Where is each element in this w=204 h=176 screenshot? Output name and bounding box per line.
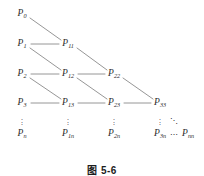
node-p1n-subscript: 1n (68, 132, 74, 139)
node-p2n: P2n (108, 129, 120, 139)
node-p3n: P3n (154, 129, 166, 139)
edge-layer (0, 0, 204, 176)
node-p11: P11 (62, 39, 73, 49)
vdots-col-2: ... (113, 117, 115, 125)
node-p13-subscript: 13 (68, 101, 74, 108)
vdots-col-0: ... (21, 117, 23, 125)
node-pnn-subscript: nn (188, 132, 194, 139)
node-p23-subscript: 23 (114, 101, 120, 108)
node-p1n: P1n (62, 129, 74, 139)
node-p23: P23 (108, 98, 120, 108)
node-p12: P12 (62, 69, 74, 79)
edge-p22-p33 (123, 78, 153, 99)
node-pnn: Pnn (182, 129, 194, 139)
hdots-bottom-row: ⋯ (170, 131, 179, 139)
node-p3-subscript: 3 (23, 101, 26, 108)
node-p0-subscript: 0 (23, 12, 26, 19)
vdots-col-1: ... (67, 117, 69, 125)
node-p2: P2 (18, 69, 27, 79)
node-p33: P33 (154, 98, 166, 108)
vdots-col-3: ... (159, 117, 161, 125)
ddots-corner: ⋱ (170, 117, 178, 125)
vdots-col-0-dot: . (21, 122, 23, 125)
edge-p0-p11 (30, 18, 61, 40)
figure-caption: 图 5-6 (0, 162, 204, 176)
node-p2-subscript: 2 (23, 72, 26, 79)
node-p1-subscript: 1 (23, 42, 26, 49)
node-p13: P13 (62, 98, 74, 108)
node-p12-subscript: 12 (68, 72, 74, 79)
edge-p2-p13 (30, 78, 61, 99)
node-p3: P3 (18, 98, 27, 108)
edge-p12-p23 (77, 78, 107, 99)
node-p0: P0 (18, 9, 27, 19)
node-p2n-subscript: 2n (114, 132, 120, 139)
vdots-col-1-dot: . (67, 122, 69, 125)
vdots-col-3-dot: . (159, 122, 161, 125)
node-p1: P1 (18, 39, 27, 49)
node-p11-subscript: 11 (68, 42, 73, 49)
node-p22: P22 (108, 69, 120, 79)
vdots-col-2-dot: . (113, 122, 115, 125)
edge-p1-p12 (30, 48, 61, 70)
node-p3n-subscript: 3n (160, 132, 166, 139)
node-pn-subscript: n (23, 132, 26, 139)
figure-container: P0P1P11P2P12P22P3P13P23P33PnP1nP2nP3nPnn… (0, 0, 204, 176)
node-p22-subscript: 22 (114, 72, 120, 79)
edge-p11-p22 (77, 48, 107, 70)
node-pn: Pn (18, 129, 27, 139)
node-p33-subscript: 33 (160, 101, 166, 108)
